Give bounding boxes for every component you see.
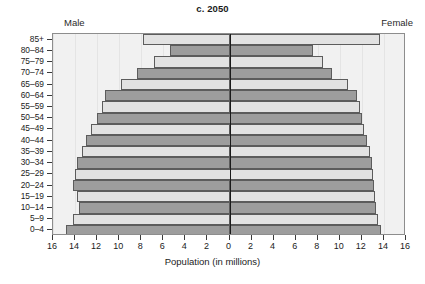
bar-row (53, 225, 404, 235)
y-tick-label: 5–9 (30, 213, 44, 223)
x-tick-mark (405, 235, 406, 240)
bar-female (230, 90, 358, 101)
bar-male (154, 56, 230, 67)
x-tick-label: 0 (226, 241, 231, 251)
y-tick-label: 80–84 (21, 45, 44, 55)
bar-row (53, 101, 404, 112)
y-tick-label: 60–64 (21, 90, 44, 100)
y-tick-label: 85+ (30, 34, 44, 44)
bar-male (66, 225, 230, 235)
bar-female (230, 180, 375, 191)
x-tick-mark (339, 235, 340, 240)
bar-row (53, 146, 404, 157)
bar-female (230, 225, 381, 235)
x-tick-mark (96, 235, 97, 240)
bar-row (53, 90, 404, 101)
y-tick-label: 0–4 (30, 224, 44, 234)
bar-row (53, 214, 404, 225)
bar-row (53, 169, 404, 180)
x-tick-label: 10 (334, 241, 344, 251)
bar-female (230, 101, 360, 112)
x-axis-ticks (52, 235, 405, 240)
bar-male (143, 34, 230, 45)
x-axis-title: Population (in millions) (0, 256, 425, 267)
bar-female (230, 34, 380, 45)
x-tick-mark (74, 235, 75, 240)
bar-row (53, 45, 404, 56)
bar-female (230, 124, 365, 135)
x-tick-mark (229, 235, 230, 240)
population-pyramid-figure: c. 2050 Male Female 85+80–8475–7970–7465… (0, 0, 425, 284)
female-series-label: Female (381, 17, 413, 28)
x-tick-mark (295, 235, 296, 240)
x-tick-mark (184, 235, 185, 240)
x-tick-label: 14 (378, 241, 388, 251)
bar-male (75, 169, 230, 180)
bar-male (73, 180, 231, 191)
x-tick-label: 10 (113, 241, 123, 251)
x-tick-mark (118, 235, 119, 240)
bar-male (77, 157, 230, 168)
y-tick-label: 20–24 (21, 180, 44, 190)
x-tick-label: 12 (356, 241, 366, 251)
bar-row (53, 180, 404, 191)
bar-male (137, 68, 231, 79)
x-tick-label: 6 (160, 241, 165, 251)
bar-male (97, 113, 230, 124)
bar-row (53, 56, 404, 67)
bar-row (53, 113, 404, 124)
bar-male (105, 90, 231, 101)
bar-female (230, 56, 324, 67)
bar-row (53, 157, 404, 168)
x-tick-mark (162, 235, 163, 240)
y-tick-label: 65–69 (21, 79, 44, 89)
x-tick-label: 14 (69, 241, 79, 251)
x-tick-mark (361, 235, 362, 240)
y-tick-label: 45–49 (21, 123, 44, 133)
x-tick-mark (206, 235, 207, 240)
bar-row (53, 68, 404, 79)
y-axis-tick-labels: 85+80–8475–7970–7465–6960–6455–5950–5445… (0, 33, 46, 235)
bar-female (230, 169, 373, 180)
x-tick-mark (251, 235, 252, 240)
bar-male (121, 79, 230, 90)
x-tick-label: 4 (270, 241, 275, 251)
bar-female (230, 191, 376, 202)
x-tick-label: 8 (138, 241, 143, 251)
y-tick-label: 50–54 (21, 112, 44, 122)
y-tick-label: 40–44 (21, 135, 44, 145)
bar-female (230, 135, 368, 146)
x-tick-label: 8 (314, 241, 319, 251)
bar-female (230, 113, 362, 124)
x-tick-mark (52, 235, 53, 240)
x-tick-label: 16 (47, 241, 57, 251)
bar-male (73, 214, 231, 225)
y-tick-label: 70–74 (21, 67, 44, 77)
x-tick-label: 16 (400, 241, 410, 251)
x-tick-mark (273, 235, 274, 240)
bar-row (53, 124, 404, 135)
bar-row (53, 191, 404, 202)
y-tick-label: 35–39 (21, 146, 44, 156)
bar-male (77, 191, 230, 202)
bar-row (53, 34, 404, 45)
x-tick-mark (317, 235, 318, 240)
plot-area (52, 33, 405, 235)
bar-female (230, 157, 372, 168)
chart-title: c. 2050 (0, 3, 425, 14)
bar-male (79, 202, 230, 213)
x-tick-mark (383, 235, 384, 240)
bar-male (91, 124, 231, 135)
x-tick-label: 6 (292, 241, 297, 251)
x-tick-label: 4 (182, 241, 187, 251)
x-axis-tick-labels: 1614121086420246810121416 (52, 241, 405, 254)
bar-male (86, 135, 230, 146)
x-tick-label: 12 (91, 241, 101, 251)
bar-female (230, 202, 377, 213)
bar-row (53, 135, 404, 146)
y-tick-label: 10–14 (21, 202, 44, 212)
x-tick-label: 2 (248, 241, 253, 251)
bar-female (230, 214, 379, 225)
y-tick-label: 25–29 (21, 168, 44, 178)
bar-female (230, 146, 370, 157)
